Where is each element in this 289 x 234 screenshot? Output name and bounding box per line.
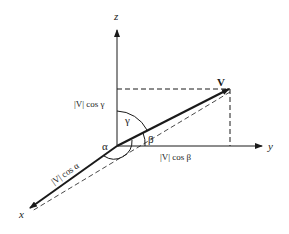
vector-v bbox=[117, 89, 229, 146]
gamma-label: γ bbox=[124, 114, 130, 126]
vector-v-label: V bbox=[217, 76, 225, 88]
alpha-arc bbox=[104, 140, 132, 159]
x-axis-label: x bbox=[18, 208, 24, 220]
vector-diagram: z y x V γ β α |V| cos γ |V| cos β |V| co… bbox=[0, 0, 289, 234]
x-axis bbox=[30, 146, 117, 208]
alpha-label: α bbox=[102, 140, 108, 152]
x-projection-dashed-1 bbox=[32, 92, 230, 211]
gamma-arc bbox=[117, 111, 147, 130]
beta-label: β bbox=[148, 133, 154, 145]
y-axis-label: y bbox=[267, 140, 273, 152]
y-component-label: |V| cos β bbox=[160, 152, 192, 162]
z-axis-label: z bbox=[113, 10, 119, 22]
z-component-label: |V| cos γ bbox=[74, 99, 105, 109]
